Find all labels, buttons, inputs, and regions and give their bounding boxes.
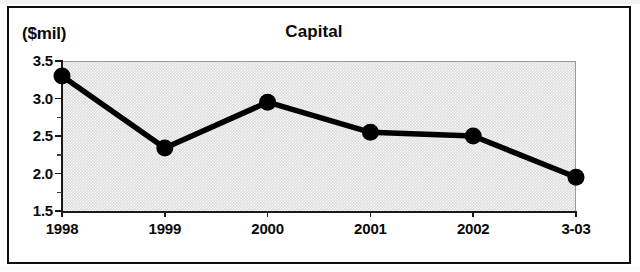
scan-edge-bottom bbox=[0, 266, 640, 272]
y-tick-label: 1.5 bbox=[9, 202, 53, 219]
y-tick-label: 3.5 bbox=[9, 52, 53, 69]
x-tick-label: 2002 bbox=[438, 220, 508, 237]
x-tick bbox=[575, 211, 577, 217]
x-tick bbox=[267, 211, 269, 217]
x-tick-label: 2000 bbox=[233, 220, 303, 237]
y-tick-minor bbox=[57, 154, 62, 156]
y-tick-label: 3.0 bbox=[9, 90, 53, 107]
y-tick-major bbox=[55, 173, 62, 175]
plot-area bbox=[62, 61, 576, 211]
y-tick-minor bbox=[57, 79, 62, 81]
x-tick bbox=[164, 211, 166, 217]
x-tick-label: 2001 bbox=[335, 220, 405, 237]
plot-background-texture bbox=[62, 61, 576, 211]
chart-title-text: Capital bbox=[285, 22, 342, 41]
x-axis-line bbox=[61, 211, 577, 213]
x-tick bbox=[61, 211, 63, 217]
x-tick bbox=[370, 211, 372, 217]
y-tick-minor bbox=[57, 192, 62, 194]
x-tick bbox=[472, 211, 474, 217]
x-tick-label: 1999 bbox=[130, 220, 200, 237]
plot-top-border bbox=[62, 61, 576, 62]
x-tick-label: 3-03 bbox=[541, 220, 611, 237]
y-tick-label: 2.0 bbox=[9, 165, 53, 182]
x-tick-label: 1998 bbox=[27, 220, 97, 237]
chart-title: Capital bbox=[9, 22, 633, 42]
y-tick-major bbox=[55, 98, 62, 100]
y-tick-label: 2.5 bbox=[9, 127, 53, 144]
chart-frame: ($mil) Capital 3.53.02.52.01.5 199819992… bbox=[7, 6, 631, 264]
scan-edge-top bbox=[0, 0, 640, 4]
y-tick-major bbox=[55, 60, 62, 62]
y-tick-major bbox=[55, 135, 62, 137]
plot-right-border bbox=[575, 61, 576, 211]
y-tick-minor bbox=[57, 117, 62, 119]
